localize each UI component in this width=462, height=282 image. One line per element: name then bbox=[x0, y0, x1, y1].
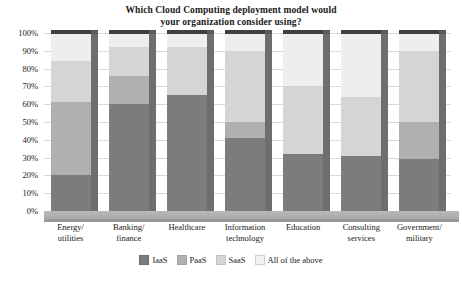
bar-segment-iaas[interactable] bbox=[399, 159, 439, 211]
bar-segment-iaas[interactable] bbox=[109, 104, 149, 211]
bar-top-cap bbox=[225, 30, 265, 34]
stacked-bar[interactable] bbox=[167, 33, 207, 211]
legend-item-iaas[interactable]: IaaS bbox=[139, 255, 167, 265]
bar-segment-all-of-the-above[interactable] bbox=[167, 33, 207, 47]
bar-group[interactable] bbox=[225, 33, 272, 211]
legend-label: All of the above bbox=[268, 255, 323, 265]
bar-side-face bbox=[439, 33, 446, 211]
stacked-bar[interactable] bbox=[341, 33, 381, 211]
y-axis-tick-label: 10% bbox=[0, 189, 38, 198]
bar-segment-saas[interactable] bbox=[51, 61, 91, 102]
bar-segment-saas[interactable] bbox=[283, 86, 323, 154]
bar-group[interactable] bbox=[167, 33, 214, 211]
bar-top-cap bbox=[109, 30, 149, 34]
bar-top-cap-side bbox=[91, 30, 98, 34]
legend-item-all-of-the-above[interactable]: All of the above bbox=[255, 255, 323, 265]
bar-side-face bbox=[207, 33, 214, 211]
bar-side-face bbox=[381, 33, 388, 211]
bar-top-cap bbox=[51, 30, 91, 34]
bar-segment-saas[interactable] bbox=[399, 51, 439, 122]
x-axis-category-label-line: technology bbox=[211, 233, 279, 244]
bar-segment-all-of-the-above[interactable] bbox=[283, 33, 323, 86]
bar-group[interactable] bbox=[283, 33, 330, 211]
legend-swatch-icon bbox=[139, 255, 149, 265]
bar-group[interactable] bbox=[51, 33, 98, 211]
bar-segment-iaas[interactable] bbox=[51, 175, 91, 211]
chart-root: Which Cloud Computing deployment model w… bbox=[0, 0, 462, 282]
legend-swatch-icon bbox=[177, 255, 187, 265]
bar-segment-all-of-the-above[interactable] bbox=[109, 33, 149, 47]
bar-segment-paas[interactable] bbox=[51, 102, 91, 175]
x-axis-labels: Energy/utilitiesBanking/financeHealthcar… bbox=[0, 222, 462, 252]
bar-segment-iaas[interactable] bbox=[341, 156, 381, 211]
y-axis-tick-label: 70% bbox=[0, 82, 38, 91]
bar-segment-saas[interactable] bbox=[109, 47, 149, 75]
bar-segment-saas[interactable] bbox=[225, 51, 265, 122]
bar-side-face bbox=[265, 33, 272, 211]
bar-group[interactable] bbox=[109, 33, 156, 211]
bar-segment-paas[interactable] bbox=[399, 122, 439, 159]
bar-segment-iaas[interactable] bbox=[225, 138, 265, 211]
bar-top-cap-side bbox=[149, 30, 156, 34]
chart-title-line-1: Which Cloud Computing deployment model w… bbox=[0, 4, 462, 16]
legend-swatch-icon bbox=[216, 255, 226, 265]
x-axis-category-label: Government/military bbox=[385, 222, 453, 243]
bar-side-face bbox=[323, 33, 330, 211]
bar-side-face bbox=[149, 33, 156, 211]
y-axis-tick-label: 20% bbox=[0, 171, 38, 180]
y-axis-tick-label: 100% bbox=[0, 29, 38, 38]
chart-title: Which Cloud Computing deployment model w… bbox=[0, 4, 462, 28]
bar-top-cap-side bbox=[207, 30, 214, 34]
bar-segment-all-of-the-above[interactable] bbox=[399, 33, 439, 51]
bar-group[interactable] bbox=[399, 33, 446, 211]
stacked-bar[interactable] bbox=[283, 33, 323, 211]
y-axis-tick-label: 30% bbox=[0, 153, 38, 162]
bar-segment-all-of-the-above[interactable] bbox=[341, 33, 381, 97]
bar-top-cap bbox=[399, 30, 439, 34]
legend-label: IaaS bbox=[152, 255, 167, 265]
legend-item-paas[interactable]: PaaS bbox=[177, 255, 207, 265]
x-axis-category-label-line: military bbox=[385, 233, 453, 244]
stacked-bar[interactable] bbox=[109, 33, 149, 211]
legend-item-saas[interactable]: SaaS bbox=[216, 255, 246, 265]
bar-top-cap bbox=[167, 30, 207, 34]
bar-top-cap bbox=[341, 30, 381, 34]
bar-segment-paas[interactable] bbox=[225, 122, 265, 138]
bar-top-cap-side bbox=[265, 30, 272, 34]
bar-segment-all-of-the-above[interactable] bbox=[51, 33, 91, 61]
chart-legend: IaaSPaaSSaaSAll of the above bbox=[0, 255, 462, 265]
y-axis-tick-label: 50% bbox=[0, 118, 38, 127]
stacked-bar[interactable] bbox=[225, 33, 265, 211]
stacked-bar[interactable] bbox=[399, 33, 439, 211]
y-axis-labels: 0%10%20%30%40%50%60%70%80%90%100% bbox=[0, 33, 40, 211]
plot-area bbox=[44, 33, 451, 211]
bar-top-cap bbox=[283, 30, 323, 34]
bar-segment-saas[interactable] bbox=[341, 97, 381, 156]
bar-segment-all-of-the-above[interactable] bbox=[225, 33, 265, 51]
y-axis-tick-label: 90% bbox=[0, 47, 38, 56]
bar-segment-iaas[interactable] bbox=[283, 154, 323, 211]
bar-segment-iaas[interactable] bbox=[167, 95, 207, 211]
bar-top-cap-side bbox=[439, 30, 446, 34]
chart-title-line-2: your organization consider using? bbox=[0, 16, 462, 28]
x-axis-category-label-line: Government/ bbox=[385, 222, 453, 233]
bar-segment-saas[interactable] bbox=[167, 47, 207, 95]
bar-top-cap-side bbox=[381, 30, 388, 34]
bar-group[interactable] bbox=[341, 33, 388, 211]
y-axis-tick-label: 80% bbox=[0, 64, 38, 73]
bar-side-face bbox=[91, 33, 98, 211]
bar-top-cap-side bbox=[323, 30, 330, 34]
legend-label: PaaS bbox=[190, 255, 207, 265]
y-axis-tick-label: 0% bbox=[0, 207, 38, 216]
y-axis-tick-label: 40% bbox=[0, 136, 38, 145]
x-axis-category-label-line: finance bbox=[95, 233, 163, 244]
bar-segment-paas[interactable] bbox=[109, 76, 149, 104]
legend-label: SaaS bbox=[229, 255, 246, 265]
y-axis-tick-label: 60% bbox=[0, 100, 38, 109]
chart-floor bbox=[44, 211, 459, 219]
legend-swatch-icon bbox=[255, 255, 265, 265]
stacked-bar[interactable] bbox=[51, 33, 91, 211]
